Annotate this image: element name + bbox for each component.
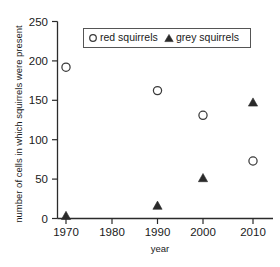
x-tick-label-2000: 2000 bbox=[190, 226, 216, 238]
y-tick-label-0: 0 bbox=[42, 213, 48, 225]
y-tick-label-50: 50 bbox=[35, 173, 48, 185]
legend-label-grey-squirrels: grey squirrels bbox=[176, 31, 239, 43]
data-point-grey-2000 bbox=[198, 174, 207, 182]
scatter-chart-figure: 250 200 150 100 50 0 1970 1980 1990 2000… bbox=[0, 0, 280, 267]
data-point-red-1970 bbox=[62, 63, 70, 71]
series-red-squirrels bbox=[62, 63, 257, 165]
data-point-grey-1990 bbox=[153, 201, 162, 209]
y-tick-label-200: 200 bbox=[29, 55, 48, 67]
x-axis-title: year bbox=[151, 243, 169, 254]
chart-legend: red squirrels grey squirrels bbox=[84, 29, 251, 48]
legend-label-red-squirrels: red squirrels bbox=[100, 31, 158, 43]
y-axis-ticks: 250 200 150 100 50 0 bbox=[29, 16, 58, 225]
axes-group bbox=[58, 22, 274, 219]
y-tick-label-250: 250 bbox=[29, 16, 48, 28]
y-tick-label-150: 150 bbox=[29, 94, 48, 106]
x-tick-label-2010: 2010 bbox=[240, 226, 266, 238]
series-grey-squirrels bbox=[61, 98, 257, 220]
data-point-grey-2010 bbox=[248, 98, 257, 106]
x-tick-label-1980: 1980 bbox=[99, 226, 125, 238]
y-axis-title: number of cells in which squirrels were … bbox=[13, 25, 24, 223]
data-point-red-1990 bbox=[153, 87, 161, 95]
x-tick-label-1970: 1970 bbox=[53, 226, 79, 238]
chart-canvas: 250 200 150 100 50 0 1970 1980 1990 2000… bbox=[0, 0, 280, 267]
x-tick-label-1990: 1990 bbox=[145, 226, 171, 238]
data-point-red-2000 bbox=[199, 111, 207, 119]
data-point-red-2010 bbox=[249, 157, 257, 165]
x-axis-ticks: 1970 1980 1990 2000 2010 bbox=[53, 219, 266, 239]
data-point-grey-1970 bbox=[61, 211, 70, 219]
y-tick-label-100: 100 bbox=[29, 134, 48, 146]
